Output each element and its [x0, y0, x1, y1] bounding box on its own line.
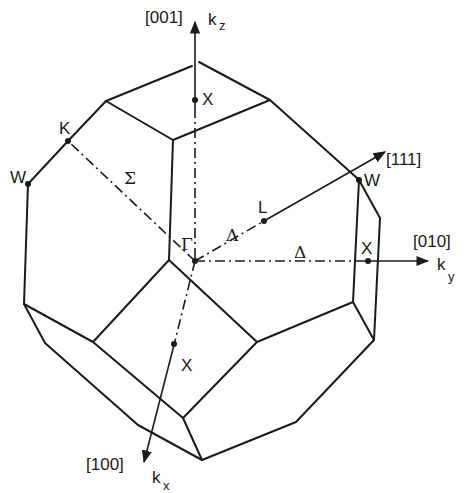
- label-111: [111]: [386, 150, 421, 169]
- gamma-point: [192, 258, 198, 264]
- x-point-front: [171, 341, 177, 347]
- label-sigma: Σ: [124, 168, 136, 188]
- label-ky: k: [437, 255, 446, 274]
- label-kx-sub: x: [163, 478, 170, 493]
- kx-axis-arrow: [144, 345, 174, 462]
- l-point: [261, 218, 267, 224]
- symmetry-points: [25, 97, 371, 347]
- sigma-line: [68, 141, 195, 261]
- label-001: [001]: [145, 8, 183, 27]
- label-gamma: Γ: [181, 234, 193, 254]
- label-100: [100]: [86, 455, 124, 474]
- label-lambda: Λ: [225, 225, 239, 245]
- label-kz: k: [208, 10, 217, 29]
- label-w-right: W: [364, 171, 380, 190]
- brillouin-zone-diagram: [001] k z [111] [010] k y [100] k x X X …: [0, 0, 464, 493]
- label-ky-sub: y: [448, 269, 455, 284]
- label-delta: Δ: [294, 242, 306, 262]
- k-point: [65, 138, 71, 144]
- x-point-right: [365, 258, 371, 264]
- label-x-top: X: [202, 90, 213, 109]
- label-010: [010]: [413, 232, 451, 251]
- label-k: K: [59, 119, 71, 138]
- label-kz-sub: z: [219, 18, 226, 33]
- label-x-right: X: [361, 239, 372, 258]
- w-point-right: [356, 177, 362, 183]
- label-l: L: [258, 198, 267, 217]
- label-w-left: W: [10, 168, 26, 187]
- label-kx: k: [152, 468, 161, 487]
- x-point-top: [192, 97, 198, 103]
- label-x-front: X: [181, 356, 192, 375]
